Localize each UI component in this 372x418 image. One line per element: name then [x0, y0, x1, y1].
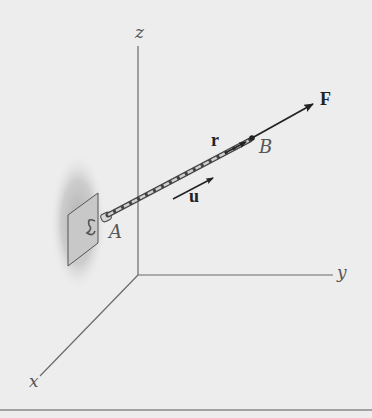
position-vector-r: [225, 142, 246, 153]
unit-vector-label: u: [189, 186, 199, 207]
point-A-label: A: [109, 221, 122, 242]
diagram-svg: [0, 0, 372, 418]
position-vector-label: r: [211, 130, 219, 151]
diagram-canvas: z y x A B F r u: [0, 0, 372, 418]
point-B-label: B: [259, 136, 272, 157]
force-label: F: [320, 89, 331, 110]
x-axis: [40, 275, 138, 376]
z-axis-label: z: [135, 22, 144, 42]
x-axis-label: x: [29, 371, 39, 391]
y-axis-label: y: [337, 262, 347, 282]
point-B: [249, 135, 255, 141]
force-vector-F: [252, 104, 313, 138]
